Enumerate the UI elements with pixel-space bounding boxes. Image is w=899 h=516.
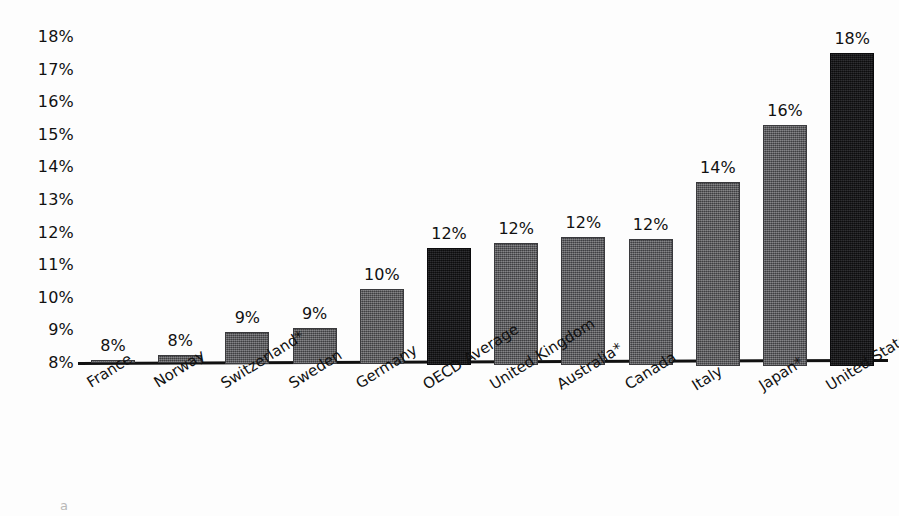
y-axis-tick-label: 11%: [4, 257, 74, 273]
bar-group: 16%: [754, 20, 816, 363]
bar-group: 14%: [687, 20, 749, 363]
plot-area: 8%8%9%9%10%12%12%12%12%14%16%18%: [78, 20, 893, 365]
bar-value-label: 8%: [76, 338, 150, 354]
bar-value-label: 9%: [210, 310, 284, 326]
bar-group: 12%: [552, 20, 614, 363]
bar-group: 12%: [485, 20, 547, 363]
bar-value-label: 12%: [546, 215, 620, 231]
bar-group: 18%: [821, 20, 883, 363]
bar-group: 9%: [284, 20, 346, 363]
y-axis-tick-label: 13%: [4, 192, 74, 208]
footnote-strip: a: [0, 503, 899, 516]
bar-group: 12%: [620, 20, 682, 363]
y-axis: 18%17%16%15%14%13%12%11%10%9%8%: [0, 0, 78, 380]
y-axis-tick-label: 10%: [4, 290, 74, 306]
y-axis-tick-label: 12%: [4, 225, 74, 241]
bar-value-label: 12%: [614, 217, 688, 233]
bar-value-label: 12%: [479, 221, 553, 237]
bar-value-label: 12%: [412, 226, 486, 242]
x-axis-category-label: Italy: [689, 362, 726, 394]
bar-chart: 18%17%16%15%14%13%12%11%10%9%8% 8%8%9%9%…: [0, 0, 899, 516]
bar-value-label: 8%: [143, 333, 217, 349]
bar-group: 10%: [351, 20, 413, 363]
y-axis-tick-label: 9%: [4, 322, 74, 338]
bar[interactable]: [830, 53, 874, 366]
bar[interactable]: [763, 125, 807, 366]
footnote-text: a: [60, 503, 68, 512]
y-axis-tick-label: 17%: [4, 62, 74, 78]
y-axis-tick-label: 14%: [4, 159, 74, 175]
bar-group: 12%: [418, 20, 480, 363]
bar-value-label: 16%: [748, 103, 822, 119]
x-axis-labels: FranceNorwaySwitzerland*SwedenGermanyOEC…: [78, 365, 893, 485]
bar[interactable]: [629, 239, 673, 365]
bar-value-label: 18%: [815, 31, 889, 47]
y-axis-tick-label: 16%: [4, 94, 74, 110]
bar-value-label: 14%: [681, 160, 755, 176]
y-axis-tick-label: 8%: [4, 355, 74, 371]
bar[interactable]: [427, 248, 471, 364]
y-axis-tick-label: 18%: [4, 29, 74, 45]
bar-group: 8%: [149, 20, 211, 363]
bar-group: 9%: [216, 20, 278, 363]
bar[interactable]: [696, 182, 740, 366]
y-axis-tick-label: 15%: [4, 127, 74, 143]
bar-group: 8%: [82, 20, 144, 363]
bar-value-label: 9%: [278, 306, 352, 322]
bar-value-label: 10%: [345, 267, 419, 283]
